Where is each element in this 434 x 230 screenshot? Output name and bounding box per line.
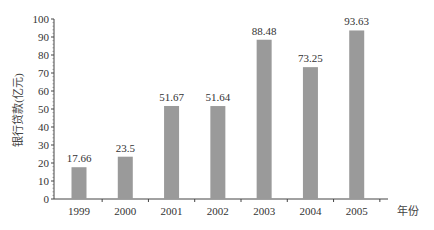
y-tick-label: 0 [44,193,50,205]
y-tick-label: 30 [38,139,50,151]
bar-value-label: 51.67 [159,91,184,103]
x-axis: 1999200020012002200320042005 [54,199,388,217]
y-axis: 0102030405060708090100 [33,13,55,205]
bar [164,106,179,199]
bar-value-label: 73.25 [298,52,323,64]
y-tick-label: 70 [38,67,50,79]
bar-value-label: 23.5 [116,142,136,154]
x-tick-label: 2000 [114,205,137,217]
bar-value-label: 93.63 [344,15,369,27]
x-tick-label: 1999 [68,205,91,217]
x-tick-label: 2004 [299,205,322,217]
bar-chart: 0102030405060708090100 19992000200120022… [0,0,434,230]
bar-value-label: 51.64 [205,91,230,103]
y-tick-label: 80 [38,49,50,61]
bar [257,40,272,199]
y-tick-label: 40 [38,121,50,133]
y-tick-label: 100 [33,13,50,25]
x-tick-label: 2001 [161,205,183,217]
bars: 17.6623.551.6751.6488.4873.2593.63 [67,15,370,199]
x-axis-title: 年份 [397,204,419,217]
bar [72,167,87,199]
bar [303,67,318,199]
x-tick-label: 2005 [346,205,369,217]
y-tick-label: 10 [38,175,50,187]
y-tick-label: 50 [38,103,50,115]
bar [210,106,225,199]
bar [349,30,364,199]
bar-value-label: 88.48 [252,25,277,37]
bar [118,157,133,199]
x-tick-label: 2003 [253,205,276,217]
x-tick-label: 2002 [207,205,229,217]
y-tick-label: 20 [38,157,50,169]
y-axis-title: 银行贷款(亿元) [11,73,25,147]
bar-value-label: 17.66 [67,152,92,164]
y-tick-label: 90 [38,31,50,43]
y-tick-label: 60 [38,85,50,97]
